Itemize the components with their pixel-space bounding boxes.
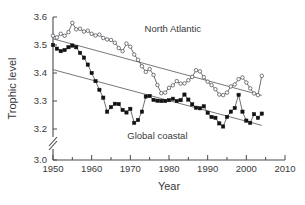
marker-global-coastal	[75, 46, 78, 49]
marker-global-coastal	[156, 99, 159, 102]
marker-north-atlantic	[245, 81, 249, 85]
marker-north-atlantic	[105, 38, 109, 42]
marker-north-atlantic	[233, 83, 237, 87]
marker-north-atlantic	[59, 32, 63, 36]
marker-global-coastal	[144, 95, 147, 98]
marker-north-atlantic	[241, 76, 245, 80]
marker-global-coastal	[160, 99, 163, 102]
marker-global-coastal	[90, 71, 93, 74]
marker-global-coastal	[86, 63, 89, 66]
marker-global-coastal	[121, 108, 124, 111]
marker-north-atlantic	[218, 93, 222, 97]
marker-global-coastal	[171, 97, 174, 100]
marker-global-coastal	[102, 96, 105, 99]
marker-north-atlantic	[98, 33, 102, 37]
marker-global-coastal	[117, 102, 120, 105]
marker-global-coastal	[133, 121, 136, 124]
marker-north-atlantic	[175, 79, 179, 83]
data-series	[51, 21, 263, 128]
marker-north-atlantic	[248, 87, 252, 91]
marker-north-atlantic	[102, 36, 106, 40]
marker-global-coastal	[252, 113, 255, 116]
marker-global-coastal	[78, 51, 81, 54]
y-tick-label: 3.6	[34, 11, 47, 22]
marker-north-atlantic	[55, 36, 59, 40]
marker-global-coastal	[175, 99, 178, 102]
marker-north-atlantic	[117, 46, 121, 50]
marker-global-coastal	[256, 116, 259, 119]
marker-north-atlantic	[171, 84, 175, 88]
marker-north-atlantic	[129, 45, 133, 49]
marker-global-coastal	[113, 102, 116, 105]
marker-north-atlantic	[113, 41, 117, 45]
marker-north-atlantic	[252, 92, 256, 96]
marker-north-atlantic	[109, 38, 113, 42]
x-tick-label: 2010	[274, 163, 295, 174]
marker-north-atlantic	[136, 58, 140, 62]
x-axis-label: Year	[158, 180, 181, 192]
marker-global-coastal	[187, 98, 190, 101]
marker-global-coastal	[109, 106, 112, 109]
marker-north-atlantic	[121, 49, 125, 53]
marker-global-coastal	[233, 106, 236, 109]
marker-global-coastal	[206, 111, 209, 114]
marker-north-atlantic	[63, 34, 67, 38]
x-tick-label: 1950	[42, 163, 63, 174]
marker-north-atlantic	[90, 32, 94, 36]
x-tick-label: 1960	[81, 163, 102, 174]
marker-global-coastal	[152, 98, 155, 101]
marker-north-atlantic	[179, 82, 183, 86]
marker-north-atlantic	[163, 91, 167, 95]
marker-north-atlantic	[167, 86, 171, 90]
marker-north-atlantic	[260, 74, 264, 78]
marker-north-atlantic	[140, 65, 144, 69]
marker-north-atlantic	[190, 75, 194, 79]
marker-global-coastal	[163, 99, 166, 102]
marker-north-atlantic	[94, 34, 98, 38]
marker-north-atlantic	[183, 82, 187, 86]
marker-north-atlantic	[148, 67, 152, 71]
marker-global-coastal	[63, 48, 66, 51]
axis-break-mark	[49, 141, 57, 150]
marker-global-coastal	[55, 47, 58, 50]
marker-global-coastal	[260, 112, 263, 115]
marker-global-coastal	[179, 99, 182, 102]
marker-global-coastal	[136, 118, 139, 121]
y-axis-label: Trophic level	[6, 58, 18, 120]
y-tick-label: 3.4	[34, 67, 47, 78]
marker-global-coastal	[98, 88, 101, 91]
axis-break-mark	[49, 137, 57, 146]
marker-global-coastal	[94, 79, 97, 82]
x-tick-label: 1990	[197, 163, 218, 174]
marker-north-atlantic	[225, 91, 229, 95]
marker-north-atlantic	[202, 75, 206, 79]
marker-north-atlantic	[160, 91, 164, 95]
marker-global-coastal	[249, 121, 252, 124]
marker-global-coastal	[148, 94, 151, 97]
x-tick-label: 1970	[120, 163, 141, 174]
trendline-global-coastal	[53, 70, 262, 126]
marker-global-coastal	[167, 99, 170, 102]
marker-global-coastal	[105, 110, 108, 113]
marker-global-coastal	[210, 115, 213, 118]
series-annotation: Global coastal	[127, 130, 187, 141]
marker-global-coastal	[202, 105, 205, 108]
marker-north-atlantic	[206, 80, 210, 84]
marker-north-atlantic	[51, 34, 55, 38]
y-tick-label: 3.3	[34, 95, 47, 106]
marker-global-coastal	[82, 56, 85, 59]
marker-global-coastal	[51, 43, 54, 46]
marker-global-coastal	[241, 110, 244, 113]
marker-global-coastal	[229, 110, 232, 113]
marker-global-coastal	[59, 50, 62, 53]
marker-north-atlantic	[125, 42, 129, 46]
marker-global-coastal	[140, 110, 143, 113]
marker-north-atlantic	[152, 73, 156, 77]
marker-north-atlantic	[74, 28, 78, 32]
marker-north-atlantic	[221, 93, 225, 97]
marker-global-coastal	[129, 107, 132, 110]
marker-north-atlantic	[210, 83, 214, 87]
marker-north-atlantic	[82, 30, 86, 33]
marker-north-atlantic	[86, 29, 90, 33]
marker-north-atlantic	[71, 21, 75, 25]
